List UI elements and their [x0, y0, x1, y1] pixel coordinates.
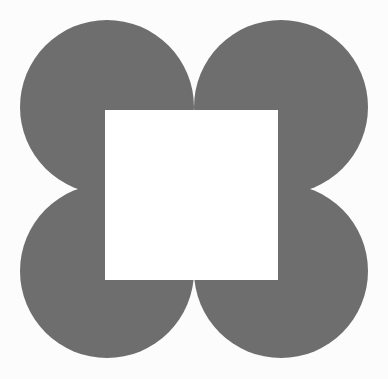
center-white-square [105, 110, 278, 280]
figure-canvas [0, 0, 388, 379]
figure-svg [0, 0, 388, 379]
